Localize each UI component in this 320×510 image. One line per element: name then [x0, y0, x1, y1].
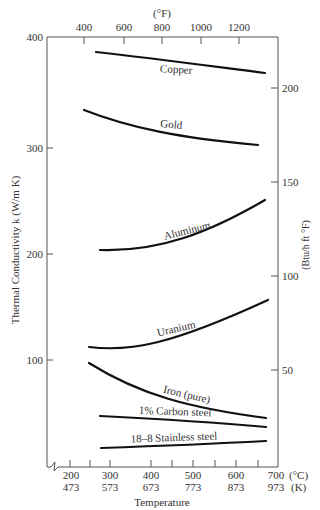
top-tick-label: 800: [154, 21, 171, 33]
bottom-tick-label-k: 973: [268, 481, 285, 493]
bottom-tick-label-k: 773: [185, 481, 202, 493]
right-axis: [271, 88, 278, 370]
right-tick-label: 50: [282, 364, 294, 376]
left-tick-label: 400: [27, 31, 44, 43]
left-tick-label: 200: [27, 248, 44, 260]
y-axis-label: Thermal Conductivity k (W/m K): [9, 175, 22, 324]
bottom-tick-label-c: 400: [143, 469, 160, 481]
top-tick-label: 1200: [228, 21, 251, 33]
x-unit-kelvin: (K): [291, 481, 307, 494]
right-tick-label: 150: [282, 176, 299, 188]
bottom-tick-label-k: 573: [102, 481, 119, 493]
series-label-gold: Gold: [160, 117, 183, 131]
bottom-tick-label-k: 873: [228, 481, 245, 493]
bottom-tick-label-c: 500: [185, 469, 202, 481]
series-label-carbon-steel: 1% Carbon steel: [139, 404, 212, 419]
bottom-tick-label-k: 673: [143, 481, 160, 493]
bottom-axis: [70, 460, 258, 467]
bottom-tick-label-c: 700: [268, 469, 285, 481]
series-label-copper: Copper: [160, 62, 193, 76]
series-carbon-steel-line: [100, 416, 266, 427]
top-axis: [84, 37, 239, 44]
bottom-tick-label-c: 600: [228, 469, 245, 481]
series-label-aluminum: Aluminum: [162, 218, 212, 241]
thermal-conductivity-chart: 400 600 800 1000 1200 (°F) 400 300 200 1…: [0, 0, 320, 510]
series-label-uranium: Uranium: [156, 318, 197, 339]
y2-axis-label: (Btu/h ft °F): [300, 220, 312, 270]
bottom-tick-label-c: 200: [63, 469, 80, 481]
top-tick-label: 400: [76, 21, 93, 33]
left-axis: [47, 148, 53, 360]
bottom-tick-label-c: 300: [102, 469, 119, 481]
top-tick-label: 600: [116, 21, 133, 33]
series-label-stainless-steel: 18–8 Stainless steel: [130, 429, 217, 444]
right-tick-label: 200: [282, 82, 299, 94]
top-axis-unit: (°F): [153, 7, 171, 20]
left-tick-label: 300: [27, 142, 44, 154]
x-axis-label: Temperature: [134, 496, 190, 508]
axis-break-mark: [47, 460, 64, 471]
bottom-tick-label-k: 473: [63, 481, 80, 493]
top-tick-label: 1000: [190, 21, 213, 33]
right-tick-label: 100: [282, 270, 299, 282]
left-tick-label: 100: [27, 354, 44, 366]
